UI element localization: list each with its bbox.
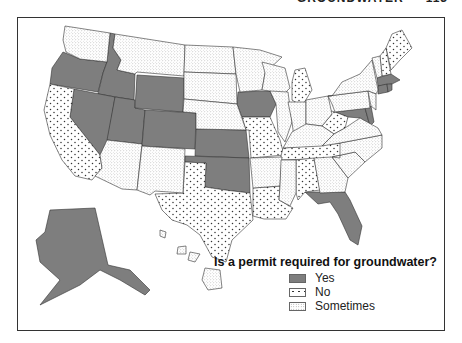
- legend-item-sometimes: Sometimes: [289, 300, 375, 312]
- legend-title: Is a permit required for groundwater?: [214, 255, 437, 269]
- state-ms-sometimes: [279, 160, 296, 206]
- legend-swatch-yes: [289, 274, 306, 283]
- state-nd-sometimes: [184, 45, 236, 74]
- state-ia-yes: [237, 91, 276, 117]
- us-map: [0, 0, 462, 343]
- legend-item-no: No: [289, 286, 330, 298]
- legend-label-sometimes: Sometimes: [315, 299, 375, 313]
- state-ak-yes: [36, 208, 150, 305]
- legend-label-yes: Yes: [315, 271, 335, 285]
- state-ny-sometimes: [328, 60, 378, 96]
- state-ri-yes: [387, 84, 392, 92]
- legend-label-no: No: [315, 285, 330, 299]
- state-me-no: [386, 30, 412, 70]
- legend-swatch-no: [289, 288, 306, 297]
- state-sd-sometimes: [184, 72, 237, 104]
- legend-item-yes: Yes: [289, 272, 335, 284]
- state-co-yes: [142, 110, 196, 149]
- state-ar-sometimes: [250, 157, 282, 188]
- state-ks-yes: [195, 129, 249, 158]
- state-ct-yes: [378, 84, 388, 94]
- state-wy-yes: [135, 75, 184, 112]
- state-mt-sometimes: [113, 34, 185, 76]
- state-nm-sometimes: [137, 146, 185, 195]
- state-fl-yes: [305, 192, 362, 245]
- legend-swatch-sometimes: [289, 302, 306, 311]
